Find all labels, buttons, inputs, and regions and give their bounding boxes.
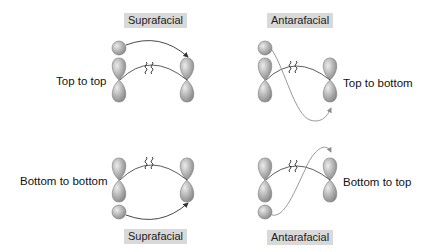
bond-arc [120, 65, 187, 80]
broken-bond-icon [289, 61, 297, 73]
label-top-to-top: Top to top [56, 74, 107, 88]
panel-bottom-left [112, 157, 194, 219]
panel-top-left [112, 41, 194, 102]
p-orbital-left [258, 58, 272, 102]
panel-top-right [258, 41, 337, 121]
suprafacial-arrow [126, 203, 188, 219]
p-orbital-left [112, 158, 126, 202]
antarafacial-tag-bottom: Antarafacial [267, 230, 333, 245]
s-orbital-sphere [258, 205, 272, 219]
label-bottom-to-top: Bottom to top [343, 175, 411, 189]
s-orbital-sphere [112, 205, 126, 219]
bond-arc [120, 165, 187, 180]
broken-bond-icon [145, 157, 153, 169]
p-orbital-left [258, 158, 272, 202]
suprafacial-tag-bottom: Suprafacial [124, 229, 187, 244]
label-top-to-bottom: Top to bottom [343, 76, 413, 90]
suprafacial-arrow [126, 41, 188, 57]
bond-arc [266, 166, 330, 180]
antarafacial-tag-top: Antarafacial [267, 13, 333, 28]
label-bottom-to-bottom: Bottom to bottom [20, 174, 108, 188]
s-orbital-sphere [112, 41, 126, 55]
broken-bond-icon [145, 62, 153, 74]
diagram-canvas [0, 0, 433, 252]
bond-arc [266, 66, 330, 80]
antarafacial-arrow [272, 50, 331, 121]
panel-bottom-right [258, 147, 337, 219]
antarafacial-arrow [272, 147, 331, 215]
s-orbital-sphere [258, 41, 272, 55]
suprafacial-tag-top: Suprafacial [124, 13, 187, 28]
p-orbital-left [112, 58, 126, 102]
